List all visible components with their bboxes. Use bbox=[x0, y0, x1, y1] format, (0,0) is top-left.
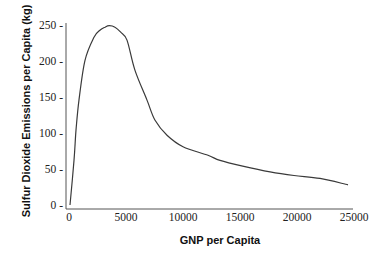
x-tick-label: 10000 bbox=[169, 211, 198, 223]
y-tick-label: 50 - bbox=[45, 163, 63, 175]
x-tick-label: 20000 bbox=[283, 211, 312, 223]
emissions-curve bbox=[70, 26, 348, 205]
y-tick-label: 0 - bbox=[51, 199, 64, 211]
y-tick-label: 150 - bbox=[39, 91, 63, 103]
y-axis: 0 -50 -100 -150 -200 -250 - bbox=[39, 19, 66, 211]
x-axis-title: GNP per Capita bbox=[180, 234, 261, 246]
x-tick-label: 25000 bbox=[340, 211, 369, 223]
y-tick-label: 100 - bbox=[39, 127, 63, 139]
x-axis: 0500010000150002000025000 bbox=[66, 209, 369, 223]
x-tick-label: 15000 bbox=[226, 211, 255, 223]
y-axis-title: Sulfur Dioxide Emissions per Capita (kg) bbox=[20, 4, 32, 217]
x-tick-label: 0 bbox=[66, 211, 72, 223]
x-tick-label: 5000 bbox=[115, 211, 138, 223]
y-tick-label: 250 - bbox=[39, 19, 63, 31]
y-tick-label: 200 - bbox=[39, 55, 63, 67]
chart: 0 -50 -100 -150 -200 -250 - 050001000015… bbox=[0, 0, 384, 257]
